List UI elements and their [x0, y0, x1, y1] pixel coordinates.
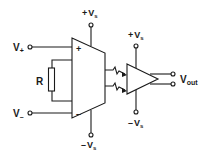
circuit-diagram: V+ V– R + – +Vs –Vs +Vs –Vs Vout — [0, 0, 207, 158]
amp2-vs-minus-label: –Vs — [128, 118, 144, 129]
amp1-vs-minus-terminal — [89, 133, 93, 137]
coupling-arrow-top-icon — [122, 72, 127, 77]
amp2-vs-minus-terminal — [134, 110, 138, 114]
amp1-vs-minus-label: –Vs — [81, 140, 97, 151]
amp2-vs-plus-terminal — [134, 44, 138, 48]
resistor-r — [49, 68, 55, 91]
v-plus-label: V+ — [13, 42, 24, 54]
coupling-arrow-bottom-icon — [122, 88, 127, 93]
resistor-bottom-lead — [52, 91, 72, 101]
v-plus-terminal — [28, 45, 32, 49]
resistor-top-lead — [52, 60, 72, 68]
vout-label: Vout — [180, 74, 198, 86]
amp1-vs-plus-terminal — [89, 23, 93, 27]
v-minus-label: V– — [13, 108, 24, 120]
vout-terminal-top — [171, 72, 175, 76]
resistor-label: R — [36, 76, 44, 87]
amp1-plus-sign: + — [76, 44, 81, 54]
amp1-minus-sign: – — [76, 109, 81, 119]
amp1-vs-plus-label: +Vs — [82, 8, 98, 19]
vout-terminal-bottom — [171, 82, 175, 86]
amp2-vs-plus-label: +Vs — [128, 30, 144, 41]
v-minus-terminal — [28, 111, 32, 115]
output-amp-body — [127, 64, 158, 94]
